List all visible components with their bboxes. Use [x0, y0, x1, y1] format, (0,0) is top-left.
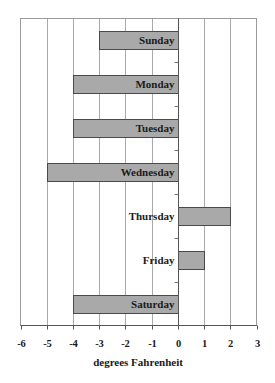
x-tick-label: -4	[69, 338, 78, 349]
temperature-bar-chart: SundayMondayTuesdayWednesdayThursdayFrid…	[0, 0, 275, 383]
bar-label: Friday	[143, 254, 175, 266]
bar-tuesday: Tuesday	[74, 120, 179, 138]
bar-label: Tuesday	[136, 122, 175, 134]
bar-label: Thursday	[129, 210, 175, 222]
x-tick-label: 2	[228, 338, 233, 349]
x-tick-label: 1	[202, 338, 207, 349]
bar-rect	[179, 252, 205, 270]
x-tick-label: -3	[95, 338, 104, 349]
bar-wednesday: Wednesday	[48, 164, 179, 182]
x-tick-label: -1	[148, 338, 157, 349]
x-tick-label: 3	[255, 338, 260, 349]
bar-monday: Monday	[74, 76, 179, 94]
x-tick-label: -5	[43, 338, 52, 349]
bar-thursday: Thursday	[129, 208, 231, 226]
bars: SundayMondayTuesdayWednesdayThursdayFrid…	[48, 19, 231, 326]
bar-friday: Friday	[143, 252, 205, 270]
bar-sunday: Sunday	[100, 32, 179, 50]
bar-label: Saturday	[131, 298, 175, 310]
bar-saturday: Saturday	[74, 296, 179, 314]
bar-label: Sunday	[139, 34, 175, 46]
x-tick-label: -6	[17, 338, 26, 349]
bar-label: Monday	[135, 78, 175, 90]
x-tick-label: -2	[121, 338, 130, 349]
bar-label: Wednesday	[121, 166, 175, 178]
x-axis-title: degrees Fahrenheit	[93, 356, 183, 368]
bar-rect	[179, 208, 231, 226]
x-axis: -6-5-4-3-2-10123	[17, 326, 260, 350]
x-tick-label: 0	[176, 338, 181, 349]
